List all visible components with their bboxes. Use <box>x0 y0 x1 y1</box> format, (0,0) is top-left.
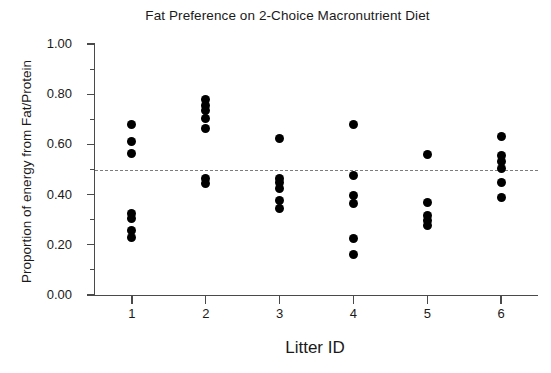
x-tick-label: 2 <box>186 306 226 321</box>
x-tick <box>353 296 354 304</box>
y-axis-title: Proportion of energy from Fat/Protein <box>19 27 34 317</box>
data-point <box>349 120 358 129</box>
data-point <box>127 214 136 223</box>
x-tick <box>500 296 501 304</box>
data-point <box>127 233 136 242</box>
x-tick-label: 6 <box>481 306 521 321</box>
data-point <box>349 234 358 243</box>
y-tick-major <box>87 144 95 145</box>
plot-area <box>95 44 538 295</box>
y-tick-major <box>87 94 95 95</box>
x-axis-title: Litter ID <box>95 338 535 358</box>
y-tick-label: 1.00 <box>10 36 72 51</box>
data-point <box>275 204 284 213</box>
data-point <box>349 199 358 208</box>
x-tick-label: 5 <box>407 306 447 321</box>
x-tick <box>131 296 132 304</box>
data-point <box>497 164 506 173</box>
y-tick-label: 0.80 <box>10 86 72 101</box>
data-point <box>201 114 210 123</box>
data-point <box>349 250 358 259</box>
x-tick <box>205 296 206 304</box>
data-point <box>497 132 506 141</box>
chart-title: Fat Preference on 2-Choice Macronutrient… <box>0 8 551 23</box>
y-tick-label: 0.20 <box>10 237 72 252</box>
y-tick-major <box>87 43 95 44</box>
data-point <box>423 198 432 207</box>
data-point <box>127 149 136 158</box>
data-point <box>497 178 506 187</box>
data-point <box>201 179 210 188</box>
data-point <box>423 221 432 230</box>
x-tick <box>279 296 280 304</box>
data-point <box>127 120 136 129</box>
data-point <box>423 150 432 159</box>
data-point <box>275 184 284 193</box>
data-point <box>127 137 136 146</box>
y-tick-label: 0.00 <box>10 287 72 302</box>
x-tick-label: 3 <box>260 306 300 321</box>
y-tick-label: 0.60 <box>10 136 72 151</box>
data-point <box>497 193 506 202</box>
data-point <box>201 124 210 133</box>
scatter-plot-figure: Fat Preference on 2-Choice Macronutrient… <box>0 0 551 373</box>
x-tick <box>427 296 428 304</box>
x-tick-label: 4 <box>333 306 373 321</box>
y-tick-label: 0.40 <box>10 187 72 202</box>
y-tick-major <box>87 194 95 195</box>
y-tick-major <box>87 244 95 245</box>
x-tick-label: 1 <box>112 306 152 321</box>
data-point <box>275 134 284 143</box>
y-tick-major <box>87 294 95 295</box>
data-point <box>349 171 358 180</box>
